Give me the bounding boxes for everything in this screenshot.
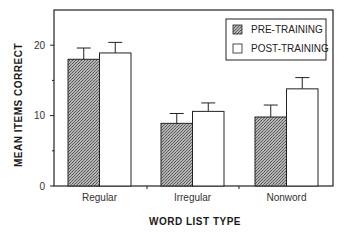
legend: PRE-TRAINING POST-TRAINING — [226, 19, 329, 60]
x-category-label: Nonword — [266, 192, 306, 203]
y-tick-label: 20 — [34, 40, 46, 51]
bar-post-training — [193, 111, 225, 186]
legend-swatch-pre — [233, 25, 242, 34]
x-category-label: Regular — [82, 192, 118, 203]
legend-swatch-post — [233, 44, 242, 53]
bar-post-training — [287, 89, 319, 186]
bar-pre-training — [161, 123, 193, 186]
y-tick-label: 10 — [34, 110, 46, 121]
y-tick-label: 0 — [39, 181, 45, 192]
y-axis-title: MEAN ITEMS CORRECT — [13, 43, 24, 167]
bar-pre-training — [255, 117, 287, 186]
legend-label-post: POST-TRAINING — [251, 43, 329, 54]
x-axis-title: WORD LIST TYPE — [149, 216, 241, 227]
y-axis: 01020 — [34, 40, 54, 192]
x-axis: RegularIrregularNonword — [82, 186, 307, 203]
legend-label-pre: PRE-TRAINING — [251, 24, 323, 35]
bars — [68, 42, 318, 186]
x-category-label: Irregular — [174, 192, 212, 203]
bar-chart: 01020 RegularIrregularNonword MEAN ITEMS… — [0, 0, 350, 235]
bar-pre-training — [68, 59, 100, 186]
bar-post-training — [100, 53, 132, 186]
